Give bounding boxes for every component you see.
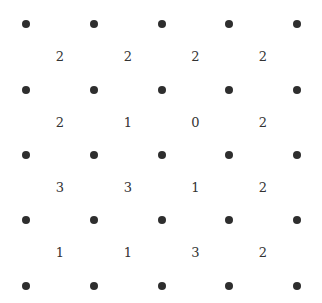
grid-dot [293, 151, 301, 159]
grid-dot [158, 282, 166, 290]
grid-dot [225, 20, 233, 28]
clue-cell[interactable]: 2 [176, 37, 216, 77]
grid-dot [90, 151, 98, 159]
grid-dot [158, 86, 166, 94]
clue-cell[interactable]: 3 [108, 168, 148, 208]
grid-dot [225, 151, 233, 159]
grid-dot [225, 282, 233, 290]
clue-cell[interactable]: 2 [243, 103, 283, 143]
clue-cell[interactable]: 2 [40, 103, 80, 143]
grid-dot [22, 282, 30, 290]
grid-dot [293, 20, 301, 28]
grid-dot [90, 86, 98, 94]
grid-dot [293, 216, 301, 224]
grid-dot [158, 151, 166, 159]
grid-dot [90, 20, 98, 28]
clue-cell[interactable]: 3 [40, 168, 80, 208]
clue-cell[interactable]: 2 [243, 233, 283, 273]
grid-dot [90, 282, 98, 290]
grid-dot [22, 86, 30, 94]
grid-dot [22, 20, 30, 28]
clue-cell[interactable]: 2 [40, 37, 80, 77]
grid-dot [22, 216, 30, 224]
clue-cell[interactable]: 1 [40, 233, 80, 273]
clue-cell[interactable]: 3 [176, 233, 216, 273]
clue-cell[interactable]: 0 [176, 103, 216, 143]
grid-dot [293, 86, 301, 94]
grid-dot [225, 86, 233, 94]
clue-cell[interactable]: 1 [108, 103, 148, 143]
clue-cell[interactable]: 2 [108, 37, 148, 77]
clue-cell[interactable]: 1 [108, 233, 148, 273]
grid-dot [293, 282, 301, 290]
grid-dot [22, 151, 30, 159]
grid-dot [90, 216, 98, 224]
clue-cell[interactable]: 2 [243, 168, 283, 208]
clue-cell[interactable]: 1 [176, 168, 216, 208]
grid-dot [158, 216, 166, 224]
grid-dot [225, 216, 233, 224]
clue-cell[interactable]: 2 [243, 37, 283, 77]
grid-dot [158, 20, 166, 28]
puzzle-board: 2222210233121132 [0, 0, 322, 303]
